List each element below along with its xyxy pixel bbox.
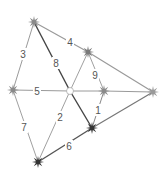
edge-weight-label: 4 xyxy=(67,37,73,48)
edge-weight-label: 1 xyxy=(95,105,101,116)
edge-D-G xyxy=(70,91,92,128)
edge-weight-label: 2 xyxy=(57,112,63,123)
edge-weight-label: 5 xyxy=(34,86,40,97)
node-star-icon xyxy=(82,46,94,58)
edge-B-D xyxy=(70,52,88,91)
node-star-icon xyxy=(98,85,110,97)
edge-C-D xyxy=(13,90,70,91)
edge-weight-label: 8 xyxy=(53,58,59,69)
edge-E-F xyxy=(104,91,153,92)
edge-weight-label: 9 xyxy=(92,70,98,81)
node-star-icon xyxy=(32,156,44,168)
node-star-icon xyxy=(86,122,98,134)
edge-weight-label: 7 xyxy=(21,122,27,133)
node-star-icon xyxy=(7,84,19,96)
node-circle-icon xyxy=(67,88,74,95)
node-star-icon xyxy=(147,86,159,98)
graph-diagram: 348951726 xyxy=(0,0,166,176)
edge-weight-label: 3 xyxy=(20,49,26,60)
node-star-icon xyxy=(28,16,40,28)
edge-weight-label: 6 xyxy=(66,141,72,152)
